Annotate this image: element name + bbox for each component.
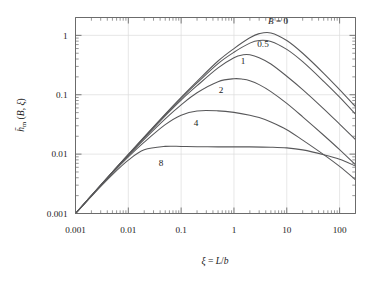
x-tick-label-3: 1 xyxy=(232,225,237,235)
curve-label-2: 1 xyxy=(241,56,246,66)
curve-label-5: 8 xyxy=(159,158,164,168)
y-tick-label-1: 0.01 xyxy=(51,149,67,159)
curve-label-0: B = 0 xyxy=(268,16,288,26)
y-tick-label-3: 1 xyxy=(63,31,68,41)
x-tick-label-0: 0.001 xyxy=(65,225,86,235)
y-tick-label-2: 0.1 xyxy=(56,90,68,100)
curve-label-3: 2 xyxy=(219,85,224,95)
chart-background xyxy=(0,0,372,284)
figure-container: 0.0010.010.1110100 0.0010.010.11 B = 00.… xyxy=(0,0,372,284)
log-log-line-chart: 0.0010.010.1110100 0.0010.010.11 B = 00.… xyxy=(0,0,372,284)
x-tick-label-2: 0.1 xyxy=(175,225,187,235)
x-tick-label-5: 100 xyxy=(333,225,347,235)
x-axis-title: ξ = L/b xyxy=(201,255,228,267)
x-tick-label-1: 0.01 xyxy=(120,225,136,235)
svg-text:ξ = L/b: ξ = L/b xyxy=(201,255,228,267)
curve-label-1: 0.5 xyxy=(257,39,269,49)
curve-label-4: 4 xyxy=(194,118,199,128)
x-tick-label-4: 10 xyxy=(282,225,292,235)
y-tick-label-0: 0.001 xyxy=(47,209,68,219)
